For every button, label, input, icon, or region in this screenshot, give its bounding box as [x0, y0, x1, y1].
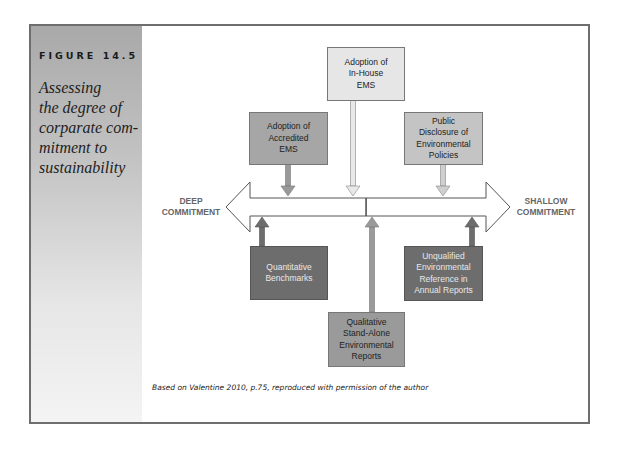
box-line: EMS	[344, 80, 387, 92]
label-line: COMMITMENT	[160, 207, 222, 218]
box-line: Accredited	[267, 133, 310, 145]
box-line: Unqualified	[414, 251, 473, 263]
box-line: Environmental	[414, 262, 473, 274]
box-line: Quantitative	[265, 262, 312, 274]
box-line: Disclosure of	[416, 127, 470, 139]
down-arrow-public-disclosure	[436, 164, 450, 196]
box-line: Environmental	[339, 340, 393, 352]
label-line: COMMITMENT	[512, 207, 580, 218]
deep-commitment-label: DEEP COMMITMENT	[160, 196, 222, 218]
box-line: Adoption of	[344, 57, 387, 69]
down-arrow-inhouse	[346, 100, 360, 196]
box-line: Annual Reports	[414, 285, 473, 297]
box-unqualified-reference: Unqualified Environmental Reference in A…	[404, 246, 483, 301]
up-arrow-qualitative	[365, 217, 379, 312]
box-line: Benchmarks	[265, 273, 312, 285]
box-line: Qualitative	[339, 317, 393, 329]
shallow-commitment-label: SHALLOW COMMITMENT	[512, 196, 580, 218]
box-line: Stand-Alone	[339, 328, 393, 340]
up-arrow-unqualified	[465, 217, 479, 246]
down-arrow-accredited	[281, 164, 295, 196]
box-line: In-House	[344, 68, 387, 80]
box-public-disclosure: Public Disclosure of Environmental Polic…	[404, 112, 483, 165]
box-line: Adoption of	[267, 121, 310, 133]
label-line: SHALLOW	[512, 196, 580, 207]
figure-caption: Based on Valentine 2010, p.75, reproduce…	[152, 383, 428, 392]
diagram-arrows	[0, 0, 617, 449]
label-line: DEEP	[160, 196, 222, 207]
shallow-arrow	[366, 182, 510, 232]
box-adoption-accredited-ems: Adoption of Accredited EMS	[249, 112, 328, 165]
deep-arrow	[226, 182, 366, 232]
up-arrow-quantitative	[255, 217, 269, 246]
box-qualitative-reports: Qualitative Stand-Alone Environmental Re…	[328, 312, 405, 367]
box-line: Environmental	[416, 139, 470, 151]
box-line: Public	[416, 116, 470, 128]
box-line: EMS	[267, 144, 310, 156]
box-line: Reports	[339, 351, 393, 363]
box-quantitative-benchmarks: Quantitative Benchmarks	[250, 246, 328, 300]
box-adoption-inhouse-ems: Adoption of In-House EMS	[327, 47, 405, 101]
box-line: Reference in	[414, 274, 473, 286]
box-line: Policies	[416, 150, 470, 162]
